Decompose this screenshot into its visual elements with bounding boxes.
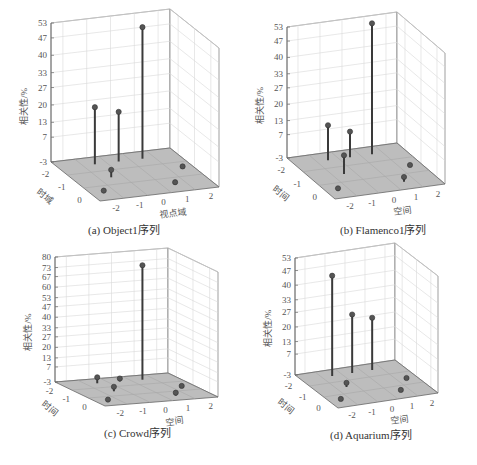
- x-axis-label: 空间: [390, 413, 409, 426]
- x-tick-label: 1: [414, 192, 419, 202]
- plot-d: -3713202733404753相关性/%-2-1012空间-2-10时间: [240, 225, 477, 425]
- z-tick-label: 13: [274, 116, 284, 126]
- stem-marker: [344, 380, 349, 385]
- z-tick-label: 7: [47, 362, 52, 372]
- stem-marker: [92, 105, 97, 110]
- z-tick-label: 53: [282, 253, 292, 263]
- z-tick-label: 27: [38, 83, 48, 93]
- z-tick-label: 13: [38, 117, 48, 127]
- z-axis-label: 相关性/%: [18, 87, 29, 125]
- z-tick-label: 80: [42, 252, 52, 262]
- stem-marker: [330, 273, 335, 278]
- stem-marker: [101, 188, 106, 193]
- z-tick-label: 20: [274, 99, 284, 109]
- z-tick-label: -3: [40, 157, 48, 167]
- stem-marker: [105, 397, 110, 402]
- z-tick-label: 47: [282, 266, 292, 276]
- y-tick-label: -1: [58, 182, 66, 192]
- panel-c: -371320273340475360677380相关性/%-2-1012空间-…: [0, 225, 240, 465]
- z-tick-label: 7: [287, 349, 292, 359]
- y-tick-label: 0: [82, 402, 87, 412]
- stem-marker: [398, 387, 403, 392]
- y-tick-label: 0: [313, 192, 318, 202]
- panel-b: -3713202733404753相关性/%-2-1012空间-2-10时间 (…: [240, 0, 477, 230]
- x-tick-label: 1: [410, 401, 415, 411]
- stem-marker: [407, 162, 412, 167]
- x-tick-label: 0: [161, 197, 166, 207]
- z-tick-label: 33: [42, 323, 52, 333]
- z-tick-label: 73: [42, 263, 52, 273]
- stem-marker: [341, 153, 346, 158]
- z-tick-label: 47: [42, 302, 52, 312]
- z-tick-label: 13: [282, 337, 292, 347]
- z-tick-label: 27: [42, 332, 52, 342]
- y-tick-label: -2: [46, 386, 54, 396]
- panel-d: -3713202733404753相关性/%-2-1012空间-2-10时间 (…: [240, 225, 477, 465]
- y-tick-label: -2: [285, 381, 293, 391]
- z-tick-label: 7: [43, 132, 48, 142]
- y-tick-label: 0: [77, 195, 82, 205]
- z-tick-label: 53: [42, 293, 52, 303]
- y-tick-label: -1: [63, 394, 71, 404]
- z-tick-label: 53: [38, 18, 48, 28]
- z-tick-label: 13: [42, 353, 52, 363]
- x-tick-label: -1: [368, 407, 376, 417]
- stem-marker: [401, 174, 406, 179]
- z-tick-label: 7: [279, 130, 284, 140]
- stem-marker: [347, 129, 352, 134]
- y-tick-label: -1: [294, 179, 302, 189]
- z-tick-label: 33: [282, 295, 292, 305]
- stem-marker: [117, 376, 122, 381]
- x-tick-label: -2: [348, 410, 356, 420]
- plot-b: -3713202733404753相关性/%-2-1012空间-2-10时间: [240, 0, 477, 215]
- x-tick-label: -1: [368, 198, 376, 208]
- z-tick-label: 40: [42, 312, 52, 322]
- stem-marker: [95, 375, 100, 380]
- stem-marker: [111, 384, 116, 389]
- z-tick-label: 47: [38, 33, 48, 43]
- z-axis-label: 相关性/%: [22, 313, 33, 351]
- z-tick-label: 40: [282, 280, 292, 290]
- x-tick-label: 0: [163, 405, 168, 415]
- y-tick-label: -2: [278, 165, 286, 175]
- z-tick-label: 20: [282, 322, 292, 332]
- stem-marker: [173, 180, 178, 185]
- z-tick-label: 67: [42, 272, 52, 282]
- x-tick-label: -2: [117, 408, 125, 418]
- x-axis-label: 空间: [393, 204, 412, 217]
- y-tick-label: -1: [299, 392, 307, 402]
- stem-marker: [350, 312, 355, 317]
- stem-marker: [370, 315, 375, 320]
- z-tick-label: 53: [274, 22, 284, 32]
- panel-a: -3713202733404753相关性/%-2-1012视点域-2-10时域 …: [0, 0, 240, 230]
- x-tick-label: -1: [136, 200, 144, 210]
- x-tick-label: 1: [185, 194, 190, 204]
- z-tick-label: 40: [38, 50, 48, 60]
- x-tick-label: 0: [392, 195, 397, 205]
- z-axis-label: 相关性/%: [254, 87, 265, 125]
- caption-d: (d) Aquarium序列: [330, 426, 412, 442]
- stem-marker: [335, 186, 340, 191]
- z-tick-label: 40: [274, 52, 284, 62]
- x-tick-label: 2: [436, 189, 441, 199]
- x-tick-label: 1: [186, 403, 191, 413]
- z-tick-label: -3: [284, 370, 292, 380]
- stem-marker: [180, 164, 185, 169]
- plot-c: -371320273340475360677380相关性/%-2-1012空间-…: [0, 225, 240, 425]
- stem-marker: [369, 21, 374, 26]
- z-tick-label: 20: [42, 342, 52, 352]
- y-axis-label: 时间: [39, 398, 60, 418]
- stem-marker: [116, 109, 121, 114]
- x-tick-label: 2: [208, 401, 213, 411]
- stem-marker: [179, 383, 184, 388]
- z-tick-label: 27: [274, 83, 284, 93]
- y-axis-label: 时间: [270, 183, 291, 203]
- stem-marker: [140, 263, 145, 268]
- x-tick-label: 2: [209, 191, 214, 201]
- x-axis-label: 视点域: [159, 206, 187, 221]
- stem-marker: [173, 390, 178, 395]
- stem-marker: [140, 25, 145, 30]
- z-tick-label: 27: [282, 307, 292, 317]
- stem-marker: [404, 375, 409, 380]
- stem-marker: [109, 167, 114, 172]
